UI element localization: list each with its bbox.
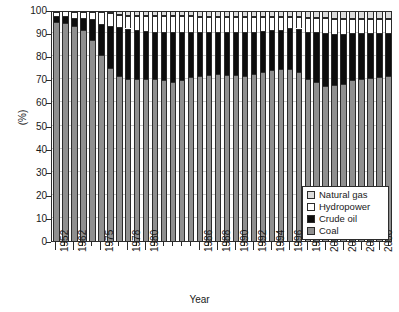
bar-segment-hydropower [233, 17, 239, 32]
x-axis-major-tick [145, 242, 146, 250]
bar-segment-crude-oil [376, 33, 382, 77]
x-axis-title: Year [0, 294, 399, 305]
legend-item: Hydropower [307, 201, 385, 212]
bar-segment-crude-oil [170, 32, 176, 82]
bar-segment-hydropower [116, 15, 122, 28]
bar-segment-natural-gas [242, 11, 248, 17]
bar-segment-hydropower [125, 16, 131, 29]
legend-item-label: Coal [319, 226, 339, 236]
bar-segment-natural-gas [367, 11, 373, 19]
bar-segment-hydropower [71, 12, 77, 18]
bar-segment-natural-gas [260, 11, 266, 17]
y-axis-tick-label: 40 [13, 145, 47, 155]
legend-item: Natural gas [307, 189, 385, 200]
legend-item: Coal [307, 225, 385, 236]
y-axis-tick-label: 100 [13, 6, 47, 16]
bar-segment-crude-oil [134, 30, 140, 80]
stacked-bar [179, 11, 185, 241]
bar-segment-crude-oil [206, 32, 212, 75]
bar-segment-natural-gas [215, 11, 221, 17]
bar-segment-natural-gas [233, 11, 239, 17]
x-axis-minor-tick [163, 242, 164, 246]
x-axis-major-tick [253, 242, 254, 250]
bar-segment-hydropower [98, 12, 104, 24]
bar-segment-hydropower [251, 17, 257, 32]
bar-segment-coal [116, 76, 122, 241]
x-axis-tick-label: 1952 [59, 206, 70, 252]
x-axis-tick-label: 1992 [257, 206, 268, 252]
stacked-bar [89, 11, 95, 241]
bar-segment-natural-gas [161, 11, 167, 16]
bar-segment-hydropower [206, 17, 212, 32]
bar-segment-natural-gas [224, 11, 230, 17]
bar-segment-natural-gas [89, 11, 95, 12]
bar-segment-natural-gas [188, 11, 194, 16]
bar-segment-natural-gas [107, 11, 113, 13]
bar-segment-natural-gas [251, 11, 257, 17]
y-axis-tick-label: 30 [13, 168, 47, 178]
x-axis-major-tick [55, 242, 56, 250]
y-axis-tick-label: 90 [13, 29, 47, 39]
bar-segment-crude-oil [116, 27, 122, 76]
x-axis-major-tick [307, 242, 308, 250]
bar-segment-hydropower [269, 17, 275, 30]
bar-segment-crude-oil [215, 32, 221, 74]
bar-segment-natural-gas [134, 11, 140, 16]
square-swatch-icon [307, 215, 315, 223]
bar-segment-crude-oil [179, 32, 185, 81]
legend-item-label: Hydropower [319, 202, 370, 212]
bar-segment-hydropower [260, 17, 266, 31]
stacked-bar [188, 11, 194, 241]
bar-segment-coal [179, 80, 185, 241]
bar-segment-crude-oil [313, 32, 319, 82]
bar-segment-natural-gas [296, 11, 302, 17]
bar-segment-crude-oil [233, 32, 239, 75]
bar-segment-hydropower [161, 16, 167, 32]
x-axis-tick-label: 1986 [203, 206, 214, 252]
bar-segment-hydropower [179, 16, 185, 32]
bar-segment-crude-oil [296, 29, 302, 73]
bar-segment-crude-oil [80, 18, 86, 30]
bar-segment-crude-oil [331, 34, 337, 85]
bar-segment-hydropower [385, 19, 391, 33]
bar-segment-crude-oil [385, 33, 391, 76]
bar-segment-crude-oil [188, 32, 194, 77]
bar-segment-hydropower [331, 19, 337, 34]
bar-segment-natural-gas [152, 11, 158, 16]
bar-segment-natural-gas [125, 11, 131, 16]
bar-segment-coal [89, 40, 95, 241]
square-swatch-icon [307, 191, 315, 199]
x-axis-major-tick [361, 242, 362, 250]
x-axis-minor-tick [91, 242, 92, 246]
bar-segment-natural-gas [53, 11, 59, 12]
x-axis-tick-label: 1962 [77, 206, 88, 252]
bar-segment-crude-oil [269, 30, 275, 70]
legend-item-label: Natural gas [319, 190, 368, 200]
y-axis-tick-label: 20 [13, 191, 47, 201]
bar-segment-natural-gas [349, 11, 355, 19]
legend-item: Crude oil [307, 213, 385, 224]
x-axis-major-tick [127, 242, 128, 250]
bar-segment-crude-oil [340, 34, 346, 84]
bar-segment-crude-oil [143, 31, 149, 80]
bar-segment-natural-gas [98, 11, 104, 12]
square-swatch-icon [307, 203, 315, 211]
bar-segment-hydropower [80, 12, 86, 18]
x-axis-major-tick [325, 242, 326, 250]
square-swatch-icon [307, 227, 315, 235]
x-axis-major-tick [217, 242, 218, 250]
bar-segment-crude-oil [152, 32, 158, 79]
x-axis-tick-label: 1988 [221, 206, 232, 252]
bar-segment-natural-gas [385, 11, 391, 19]
x-axis-major-tick [343, 242, 344, 250]
x-axis-minor-tick [172, 242, 173, 246]
x-axis-minor-tick [190, 242, 191, 246]
bar-segment-hydropower [143, 16, 149, 31]
y-axis-tick-label: 70 [13, 75, 47, 85]
bar-segment-natural-gas [71, 11, 77, 12]
bar-segment-hydropower [322, 18, 328, 33]
bar-segment-hydropower [367, 19, 373, 33]
bar-segment-hydropower [278, 17, 284, 30]
bar-segment-natural-gas [143, 11, 149, 16]
bar-segment-natural-gas [305, 11, 311, 18]
